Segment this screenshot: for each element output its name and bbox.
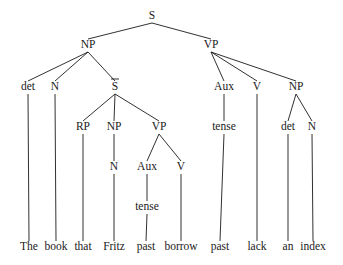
- leaf-word: book: [45, 240, 68, 252]
- tree-node-tense: tense: [135, 200, 159, 212]
- tree-edge: [152, 23, 211, 39]
- tree-node-det: det: [21, 80, 36, 92]
- tree-node-n: N: [51, 80, 60, 92]
- leaf-word: an: [283, 240, 294, 252]
- tree-node-n: N: [308, 120, 317, 132]
- tree-node-det: det: [281, 120, 296, 132]
- tree-edge: [220, 134, 224, 241]
- tree-edge: [55, 94, 56, 241]
- tree-node-aux: Aux: [214, 80, 234, 92]
- tree-node-v: V: [177, 160, 186, 172]
- tree-edge: [115, 94, 159, 121]
- leaf-word: Fritz: [103, 240, 125, 252]
- leaf-word: borrow: [164, 240, 198, 252]
- tree-edge: [211, 52, 296, 81]
- tree-edge: [88, 23, 152, 39]
- tree-nodes: SNPVPdetNSAuxVNPRPNPVPtensedetNNAuxVtens…: [20, 9, 326, 253]
- tree-edge: [55, 52, 88, 81]
- tree-edge: [159, 134, 181, 161]
- tree-node-np: NP: [107, 120, 122, 132]
- tree-edge: [28, 52, 88, 81]
- tree-edges: [28, 23, 313, 241]
- tree-node-rp: RP: [76, 120, 90, 132]
- leaf-word: The: [20, 240, 38, 252]
- tree-node-np: NP: [81, 38, 96, 50]
- tree-edge: [83, 94, 115, 121]
- tree-edge: [147, 134, 159, 161]
- tree-node-aux: Aux: [137, 160, 157, 172]
- leaf-word: index: [300, 240, 326, 252]
- tree-node-s: S: [149, 9, 155, 21]
- tree-node-tense: tense: [212, 120, 236, 132]
- tree-edge: [288, 94, 296, 121]
- tree-node-vp: VP: [204, 38, 219, 50]
- syntax-tree: SNPVPdetNSAuxVNPRPNPVPtensedetNNAuxVtens…: [0, 0, 343, 265]
- tree-edge: [296, 94, 312, 121]
- tree-node-v: V: [253, 80, 262, 92]
- tree-edge: [114, 94, 115, 121]
- tree-node-np: NP: [289, 80, 304, 92]
- leaf-word: lack: [247, 240, 266, 252]
- tree-edge: [146, 214, 147, 241]
- tree-edge: [28, 94, 29, 241]
- tree-edge: [88, 52, 115, 81]
- tree-node-n: N: [110, 160, 119, 172]
- leaf-word: past: [211, 240, 230, 253]
- leaf-word: that: [74, 240, 92, 252]
- tree-node-s: S: [112, 80, 118, 92]
- tree-edge: [312, 134, 313, 241]
- tree-node-vp: VP: [152, 120, 167, 132]
- leaf-word: past: [137, 240, 156, 253]
